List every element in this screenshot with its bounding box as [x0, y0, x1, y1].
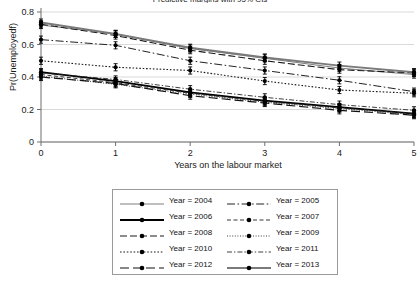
svg-text:0.4: 0.4	[21, 72, 34, 82]
legend-item[interactable]: Year = 2012	[119, 256, 226, 272]
svg-text:3: 3	[262, 148, 267, 158]
legend-item[interactable]: Year = 2005	[226, 192, 333, 208]
legend-item-label: Year = 2011	[276, 244, 318, 253]
legend-item[interactable]: Year = 2004	[119, 192, 226, 208]
data-series-layer	[39, 19, 416, 119]
svg-text:0.6: 0.6	[21, 40, 34, 50]
legend-item-label: Year = 2005	[276, 196, 319, 205]
axis-lines	[41, 8, 414, 142]
legend-line-swatch	[226, 211, 272, 221]
legend-item-label: Year = 2012	[169, 260, 212, 269]
legend-line-swatch	[226, 243, 272, 253]
legend-item-label: Year = 2013	[276, 260, 319, 269]
svg-text:5: 5	[411, 148, 416, 158]
legend-item-label: Year = 2004	[169, 196, 212, 205]
legend-item[interactable]: Year = 2008	[119, 224, 226, 240]
legend-item[interactable]: Year = 2009	[226, 224, 333, 240]
legend-item[interactable]: Year = 2011	[226, 240, 333, 256]
legend-item-label: Year = 2010	[169, 244, 212, 253]
svg-text:0.2: 0.2	[21, 105, 34, 115]
legend-item-label: Year = 2008	[169, 228, 212, 237]
plot-area: 00.20.40.60.8 012345	[0, 0, 420, 185]
legend-line-swatch	[226, 259, 272, 269]
legend-item-label: Year = 2009	[276, 228, 319, 237]
svg-text:2: 2	[188, 148, 193, 158]
legend-item-label: Year = 2007	[276, 212, 319, 221]
legend-line-swatch	[226, 195, 272, 205]
chart-figure: Predictive margins with 95% CIs Pr(Unemp…	[0, 0, 420, 281]
legend-line-swatch	[119, 227, 165, 237]
svg-text:4: 4	[337, 148, 342, 158]
svg-text:0: 0	[29, 137, 34, 147]
legend-line-swatch	[119, 211, 165, 221]
legend-item[interactable]: Year = 2007	[226, 208, 333, 224]
y-axis-ticks: 00.20.40.60.8	[21, 7, 41, 147]
legend-item[interactable]: Year = 2013	[226, 256, 333, 272]
x-axis-ticks: 012345	[38, 142, 416, 158]
legend-item[interactable]: Year = 2010	[119, 240, 226, 256]
legend-line-swatch	[119, 259, 165, 269]
legend-line-swatch	[226, 227, 272, 237]
svg-text:0.8: 0.8	[21, 7, 34, 17]
legend-line-swatch	[119, 195, 165, 205]
legend-item-label: Year = 2006	[169, 212, 212, 221]
legend-item[interactable]: Year = 2006	[119, 208, 226, 224]
legend: Year = 2004Year = 2005Year = 2006Year = …	[112, 189, 338, 275]
svg-text:1: 1	[113, 148, 118, 158]
svg-text:0: 0	[38, 148, 43, 158]
legend-line-swatch	[119, 243, 165, 253]
